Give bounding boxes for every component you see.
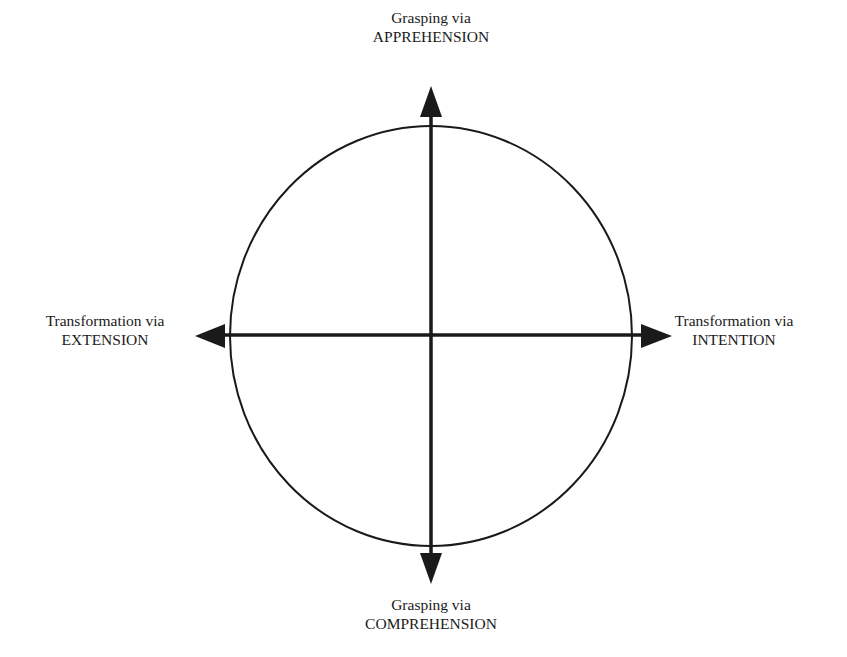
label-extension-line2: EXTENSION — [0, 330, 210, 349]
label-intention-line2: INTENTION — [624, 330, 844, 349]
label-comprehension-line2: COMPREHENSION — [331, 614, 531, 633]
label-apprehension-line1: Grasping via — [331, 8, 531, 27]
label-intention-line1: Transformation via — [624, 311, 844, 330]
label-apprehension-line2: APPREHENSION — [331, 27, 531, 46]
label-comprehension-line1: Grasping via — [331, 595, 531, 614]
label-apprehension: Grasping via APPREHENSION — [331, 8, 531, 46]
label-intention: Transformation via INTENTION — [624, 311, 844, 349]
label-extension: Transformation via EXTENSION — [0, 311, 210, 349]
label-extension-line1: Transformation via — [0, 311, 210, 330]
label-comprehension: Grasping via COMPREHENSION — [331, 595, 531, 633]
arrow-up-icon — [420, 86, 442, 117]
arrow-down-icon — [420, 553, 442, 584]
